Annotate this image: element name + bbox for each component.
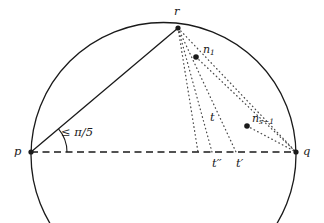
point-label-p: p [14,146,21,158]
n1-subscript: 1 [210,48,215,57]
t2-prime: ′′ [217,156,222,170]
point-label-ns: ns−1 [252,113,274,126]
axis-label-t-double-prime: t′′ [212,158,221,170]
angle-label: ≤ π/5 [61,127,93,139]
dotted-ray-ns-to-q [247,126,296,152]
figure-canvas: p q r n1 ns−1 t t′′ t′ ≤ π/5 [0,0,324,223]
vertex-dot-n1 [193,54,199,60]
point-label-q: q [303,146,310,158]
vertex-dot-q [293,149,298,154]
vertex-dot-r [175,25,180,30]
vertex-dot-p [28,149,33,154]
vertex-dot-ns [244,123,250,129]
segment-p-to-r [31,28,178,152]
dotted-ray-n1-to-q [196,57,296,152]
axis-label-t: t [210,112,215,124]
point-label-n1: n1 [203,44,215,57]
diagram-svg [0,0,324,223]
axis-label-t-prime: t′ [236,158,243,170]
point-label-r: r [174,6,180,18]
ns-subscript: s−1 [259,117,274,126]
t1-prime: ′ [241,156,243,170]
angle-label-value: π/5 [74,125,93,139]
angle-label-prefix: ≤ [61,125,74,139]
